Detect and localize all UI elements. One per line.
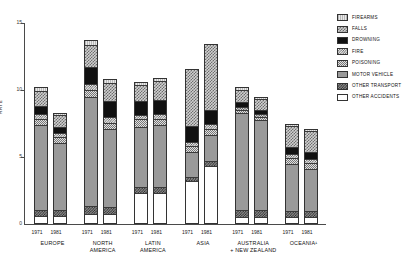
bar-segment-drowning	[85, 67, 97, 84]
legend-label: FIRE	[352, 49, 363, 55]
bar-europe-1971	[34, 87, 48, 224]
legend-item-firearms[interactable]: FIREARMS	[337, 12, 409, 23]
bar-segment-falls	[186, 70, 198, 126]
bar-segment-otheraccidents	[305, 217, 317, 223]
plot-area	[24, 23, 325, 224]
bar-segment-othertransport	[104, 207, 116, 214]
bar-segment-motor	[286, 164, 298, 211]
legend-label: MOTOR VEHICLE	[352, 72, 393, 78]
x-group-label: OCEANIA¹	[266, 240, 342, 247]
bar-segment-otheraccidents	[104, 214, 116, 223]
bar-europe-1981	[53, 113, 67, 224]
x-axis-line	[24, 224, 326, 225]
legend-item-otheraccidents[interactable]: OTHER ACCIDENTS	[337, 92, 409, 103]
bar-segment-motor	[54, 143, 66, 210]
bar-australia-new-zealand-1971	[235, 87, 249, 224]
bar-segment-drowning	[205, 110, 217, 124]
bar-segment-drowning	[35, 106, 47, 114]
bar-segment-falls	[85, 45, 97, 67]
bar-oceania-1971	[285, 124, 299, 225]
legend-item-poisoning[interactable]: POISONING	[337, 58, 409, 69]
legend-label: FIREARMS	[352, 15, 378, 21]
bar-segment-falls	[286, 126, 298, 148]
bar-segment-poisoning	[135, 119, 147, 126]
x-year-label: 1981	[145, 229, 167, 235]
bar-segment-drowning	[154, 100, 166, 114]
bar-segment-falls	[54, 115, 66, 127]
bar-segment-otheraccidents	[154, 193, 166, 223]
stacked-bar-chart: RATE 051015 19711981EUROPE19711981NORTHA…	[0, 0, 411, 268]
legend-item-drowning[interactable]: DROWNING	[337, 35, 409, 46]
legend-item-motor[interactable]: MOTOR VEHICLE	[337, 69, 409, 80]
legend-swatch-motor	[337, 71, 348, 78]
bar-segment-othertransport	[236, 210, 248, 217]
bar-segment-otheraccidents	[135, 193, 147, 223]
x-year-label: 1981	[45, 229, 67, 235]
bar-segment-otheraccidents	[205, 166, 217, 223]
legend-item-falls[interactable]: FALLS	[337, 23, 409, 34]
bar-segment-othertransport	[255, 210, 267, 217]
legend-label: POISONING	[352, 60, 380, 66]
bar-segment-falls	[255, 99, 267, 110]
bar-segment-otheraccidents	[54, 216, 66, 223]
bar-segment-motor	[205, 135, 217, 162]
legend-item-othertransport[interactable]: OTHER TRANSPORT	[337, 80, 409, 91]
bar-oceania-1981	[304, 129, 318, 224]
bar-north-america-1971	[84, 40, 98, 224]
legend-swatch-otheraccidents	[337, 94, 348, 101]
bar-segment-drowning	[286, 147, 298, 154]
bar-segment-motor	[104, 129, 116, 208]
x-group-label-line: OCEANIA¹	[266, 240, 342, 247]
y-axis-title: RATE	[0, 100, 3, 115]
bar-segment-othertransport	[85, 206, 97, 213]
bar-segment-motor	[135, 127, 147, 187]
chart-legend: FIREARMSFALLSDROWNINGFIREPOISONINGMOTOR …	[337, 12, 409, 103]
legend-swatch-othertransport	[337, 83, 348, 90]
bar-asia-1981	[204, 44, 218, 224]
bar-segment-drowning	[104, 101, 116, 118]
bar-latin-america-1981	[153, 78, 167, 224]
x-group-label-line: + NEW ZEALAND	[215, 247, 291, 254]
legend-swatch-falls	[337, 26, 348, 33]
legend-swatch-poisoning	[337, 60, 348, 67]
bar-segment-otheraccidents	[286, 217, 298, 223]
legend-label: OTHER TRANSPORT	[352, 83, 401, 89]
y-tick-label: 0	[10, 221, 22, 226]
bar-segment-otheraccidents	[35, 216, 47, 223]
bar-segment-motor	[255, 120, 267, 210]
bar-segment-motor	[35, 125, 47, 210]
bar-segment-falls	[205, 45, 217, 110]
legend-item-fire[interactable]: FIRE	[337, 46, 409, 57]
legend-swatch-firearms	[337, 14, 348, 21]
bar-australia-new-zealand-1981	[254, 97, 268, 224]
x-year-label: 1981	[95, 229, 117, 235]
bar-segment-falls	[104, 83, 116, 101]
bar-segment-otheraccidents	[186, 181, 198, 223]
bar-segment-motor	[236, 113, 248, 210]
bar-segment-falls	[154, 81, 166, 100]
bar-segment-motor	[305, 169, 317, 211]
bar-segment-motor	[154, 125, 166, 187]
x-year-label: 1981	[246, 229, 268, 235]
bar-asia-1971	[185, 69, 199, 224]
x-year-label: 1981	[296, 229, 318, 235]
bar-segment-falls	[135, 85, 147, 102]
bar-segment-drowning	[135, 101, 147, 114]
bar-segment-otheraccidents	[85, 214, 97, 223]
bar-segment-falls	[236, 90, 248, 103]
bar-segment-drowning	[305, 152, 317, 159]
legend-label: DROWNING	[352, 37, 380, 43]
legend-swatch-drowning	[337, 37, 348, 44]
bar-segment-otheraccidents	[236, 217, 248, 223]
bar-north-america-1981	[103, 79, 117, 224]
bar-latin-america-1971	[134, 82, 148, 224]
bar-segment-poisoning	[85, 90, 97, 97]
legend-label: FALLS	[352, 26, 367, 32]
x-group-label-line: AMERICA	[115, 247, 191, 254]
legend-swatch-fire	[337, 48, 348, 55]
x-year-label: 1981	[196, 229, 218, 235]
bar-segment-poisoning	[154, 119, 166, 126]
bar-segment-otheraccidents	[255, 217, 267, 223]
bar-segment-falls	[35, 91, 47, 106]
bar-segment-drowning	[186, 126, 198, 142]
